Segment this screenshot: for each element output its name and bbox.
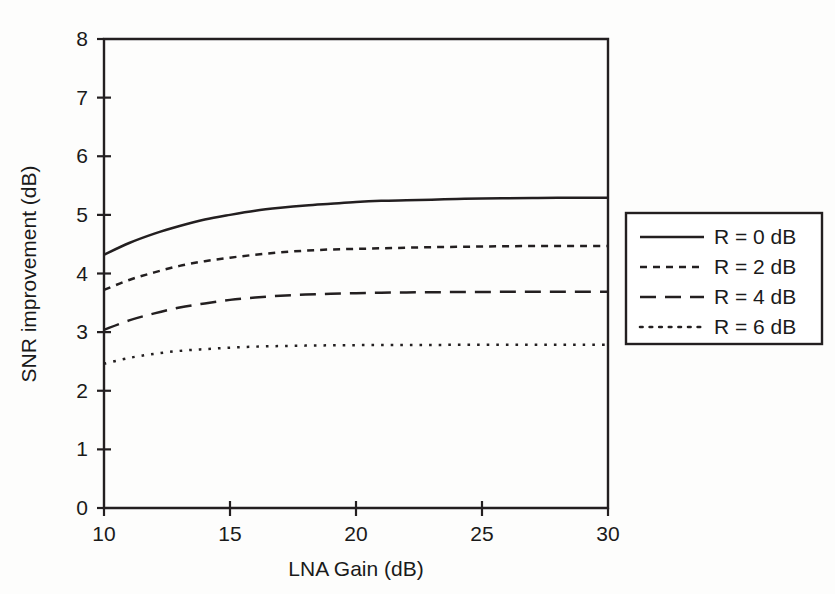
x-tick-label: 30 xyxy=(596,522,619,545)
series-line-2 xyxy=(104,292,608,330)
y-tick-label: 8 xyxy=(76,27,88,50)
x-tick-label: 25 xyxy=(470,522,493,545)
y-tick-label: 7 xyxy=(76,86,88,109)
x-tick-label: 15 xyxy=(218,522,241,545)
y-tick-label: 0 xyxy=(76,496,88,519)
y-axis-tick-labels: 012345678 xyxy=(76,27,88,519)
snr-improvement-chart: 012345678 1015202530 LNA Gain (dB) SNR i… xyxy=(0,0,835,594)
y-axis-title: SNR improvement (dB) xyxy=(17,165,40,382)
y-tick-label: 1 xyxy=(76,437,88,460)
x-tick-label: 20 xyxy=(344,522,367,545)
x-axis-title: LNA Gain (dB) xyxy=(288,557,423,580)
x-tick-label: 10 xyxy=(92,522,115,545)
legend-label-1: R = 2 dB xyxy=(714,255,796,278)
legend: R = 0 dBR = 2 dBR = 4 dBR = 6 dB xyxy=(626,213,822,344)
y-tick-label: 5 xyxy=(76,203,88,226)
legend-label-0: R = 0 dB xyxy=(714,225,796,248)
y-tick-label: 3 xyxy=(76,320,88,343)
series-line-1 xyxy=(104,246,608,290)
x-axis-tick-labels: 1015202530 xyxy=(92,522,619,545)
legend-label-3: R = 6 dB xyxy=(714,315,796,338)
y-tick-label: 4 xyxy=(76,262,88,285)
series-line-3 xyxy=(104,345,608,364)
figure-canvas: 012345678 1015202530 LNA Gain (dB) SNR i… xyxy=(0,0,835,594)
axes-frame xyxy=(104,39,608,508)
data-series-group xyxy=(104,198,608,364)
legend-label-2: R = 4 dB xyxy=(714,285,796,308)
y-tick-label: 6 xyxy=(76,144,88,167)
y-tick-label: 2 xyxy=(76,379,88,402)
